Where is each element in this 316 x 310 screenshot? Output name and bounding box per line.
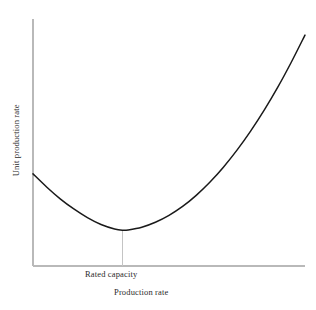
y-axis-title-container: Unit production rate <box>0 0 30 310</box>
unit-production-rate-curve <box>33 35 305 230</box>
chart-plot-area <box>0 0 316 310</box>
rated-capacity-label: Rated capacity <box>85 270 137 279</box>
chart-figure: Unit production rate Rated capacity Prod… <box>0 0 316 310</box>
x-axis-title: Production rate <box>114 288 168 297</box>
y-axis-title: Unit production rate <box>12 80 21 200</box>
